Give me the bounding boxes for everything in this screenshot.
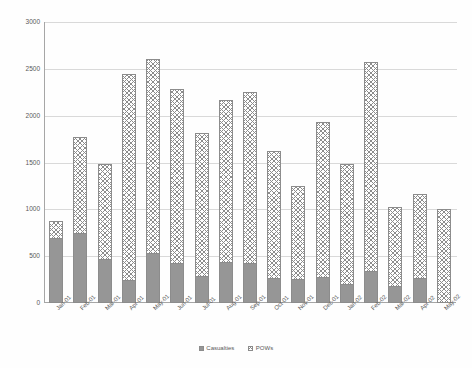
- bar-segment-pows[interactable]: [73, 137, 87, 233]
- bar-segment-casualties[interactable]: [316, 277, 330, 303]
- bar-column[interactable]: [413, 194, 427, 303]
- bar-column[interactable]: [219, 100, 233, 303]
- bar-column[interactable]: [388, 207, 402, 303]
- bar-segment-casualties[interactable]: [98, 259, 112, 303]
- bar-segment-casualties[interactable]: [73, 233, 87, 303]
- bar-segment-pows[interactable]: [49, 221, 63, 239]
- legend-label: POWs: [256, 345, 273, 351]
- bar-segment-pows[interactable]: [388, 207, 402, 287]
- bar-column[interactable]: [316, 122, 330, 303]
- legend-item[interactable]: Casualties: [199, 345, 235, 351]
- bar-column[interactable]: [195, 133, 209, 303]
- bar-segment-casualties[interactable]: [49, 238, 63, 303]
- bar-segment-pows[interactable]: [219, 100, 233, 262]
- y-axis-tick-label: 2000: [6, 112, 40, 119]
- y-axis-tick-label: 3000: [6, 18, 40, 25]
- pows-swatch: [248, 346, 253, 351]
- bar-segment-pows[interactable]: [437, 209, 451, 303]
- bar-segment-pows[interactable]: [291, 186, 305, 279]
- bars-layer: [44, 22, 456, 303]
- y-axis-tick-label: 1000: [6, 205, 40, 212]
- bar-column[interactable]: [340, 164, 354, 303]
- bar-segment-pows[interactable]: [170, 89, 184, 263]
- casualties-swatch: [199, 346, 204, 351]
- bar-column[interactable]: [73, 137, 87, 303]
- bar-segment-pows[interactable]: [340, 164, 354, 284]
- bar-segment-casualties[interactable]: [413, 278, 427, 303]
- bar-segment-pows[interactable]: [316, 122, 330, 277]
- bar-segment-pows[interactable]: [267, 151, 281, 277]
- stacked-column-chart: 050010001500200025003000 Jan-01Feb-01Mar…: [0, 0, 472, 368]
- bar-column[interactable]: [170, 89, 184, 303]
- bar-segment-casualties[interactable]: [170, 263, 184, 303]
- bar-segment-pows[interactable]: [122, 74, 136, 280]
- y-axis-tick-label: 1500: [6, 159, 40, 166]
- bar-segment-pows[interactable]: [146, 59, 160, 253]
- bar-column[interactable]: [437, 209, 451, 303]
- bar-segment-casualties[interactable]: [219, 262, 233, 303]
- legend-item[interactable]: POWs: [248, 345, 273, 351]
- bar-column[interactable]: [49, 221, 63, 303]
- bar-segment-pows[interactable]: [413, 194, 427, 277]
- bar-segment-pows[interactable]: [195, 133, 209, 276]
- bar-column[interactable]: [146, 59, 160, 303]
- bar-segment-pows[interactable]: [364, 62, 378, 271]
- bar-segment-casualties[interactable]: [243, 263, 257, 303]
- bar-segment-casualties[interactable]: [195, 276, 209, 303]
- y-axis-tick-label: 2500: [6, 65, 40, 72]
- bar-column[interactable]: [243, 92, 257, 303]
- bar-column[interactable]: [291, 186, 305, 303]
- bar-segment-pows[interactable]: [243, 92, 257, 262]
- bar-segment-pows[interactable]: [98, 164, 112, 259]
- x-axis: Jan-01Feb-01Mar-01Apr-01May-01Jun-01Jul-…: [44, 303, 456, 349]
- y-axis-tick-label: 0: [6, 299, 40, 306]
- bar-segment-casualties[interactable]: [146, 253, 160, 303]
- legend-label: Casualties: [206, 345, 234, 351]
- bar-column[interactable]: [364, 62, 378, 303]
- y-axis-tick-label: 500: [6, 252, 40, 259]
- bar-column[interactable]: [122, 74, 136, 303]
- bar-column[interactable]: [267, 151, 281, 303]
- chart-legend: CasualtiesPOWs: [0, 345, 472, 351]
- bar-segment-casualties[interactable]: [364, 271, 378, 303]
- bar-column[interactable]: [98, 164, 112, 303]
